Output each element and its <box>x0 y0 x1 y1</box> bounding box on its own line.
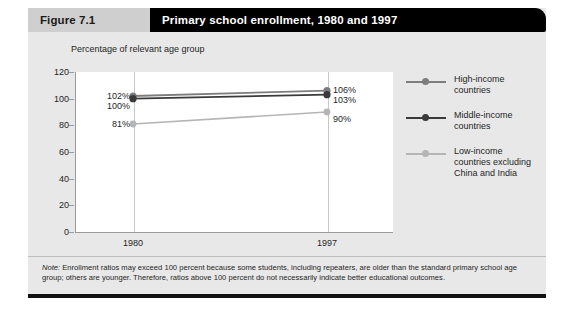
figure-note: Note: Enrollment ratios may exceed 100 p… <box>28 256 546 283</box>
legend-item-low-income[interactable]: Low-income countries excluding China and… <box>406 146 544 179</box>
figure-title-bar: Primary school enrollment, 1980 and 1997 <box>150 8 546 32</box>
x-tick-label-1997: 1997 <box>317 238 337 248</box>
figure-container: Figure 7.1 Primary school enrollment, 19… <box>28 8 546 298</box>
y-tick-mark-40 <box>69 179 74 180</box>
chart-region: Percentage of relevant age group 0 20 40… <box>28 32 546 256</box>
series-point-low-income-1980 <box>130 121 137 128</box>
y-tick-mark-100 <box>69 99 74 100</box>
legend-marker-low-income-icon <box>406 149 446 158</box>
point-label-middle-income-1997: 103% <box>333 95 356 105</box>
legend-label-high-income: High-income countries <box>454 74 544 96</box>
figure-note-lead: Note: <box>42 263 60 272</box>
chart-subtitle: Percentage of relevant age group <box>71 44 205 54</box>
point-label-high-income-1997: 106% <box>333 85 356 95</box>
series-low-income <box>130 109 331 128</box>
series-point-middle-income-1997 <box>323 91 330 98</box>
y-axis-tick-marks <box>28 72 75 232</box>
point-label-middle-income-1980: 100% <box>84 101 130 111</box>
figure-title: Primary school enrollment, 1980 and 1997 <box>162 14 397 26</box>
series-point-low-income-1997 <box>324 109 331 116</box>
y-tick-mark-20 <box>69 205 74 206</box>
legend-item-high-income[interactable]: High-income countries <box>406 74 544 96</box>
y-tick-mark-0 <box>69 232 74 233</box>
legend-label-middle-income: Middle-income countries <box>454 110 544 132</box>
legend-item-middle-income[interactable]: Middle-income countries <box>406 110 544 132</box>
figure-number-label: Figure 7.1 <box>40 14 95 26</box>
legend-label-low-income: Low-income countries excluding China and… <box>454 146 544 179</box>
figure-note-body: Enrollment ratios may exceed 100 percent… <box>42 263 517 282</box>
figure-header: Figure 7.1 Primary school enrollment, 19… <box>28 8 546 32</box>
point-label-low-income-1980: 81% <box>84 119 130 129</box>
series-point-middle-income-1980 <box>129 95 136 102</box>
legend-marker-middle-income-icon <box>406 113 446 122</box>
legend-marker-high-income-icon <box>406 77 446 86</box>
chart-legend: High-income countries Middle-income coun… <box>406 74 544 193</box>
point-label-low-income-1997: 90% <box>333 114 351 124</box>
y-tick-mark-120 <box>69 72 74 73</box>
point-label-high-income-1980: 102% <box>84 91 130 101</box>
figure-note-text: Note: Enrollment ratios may exceed 100 p… <box>42 263 534 283</box>
figure-number-badge: Figure 7.1 <box>28 8 150 32</box>
y-tick-mark-80 <box>69 125 74 126</box>
series-line-low-income <box>133 112 327 124</box>
y-tick-mark-60 <box>69 152 74 153</box>
x-tick-label-1980: 1980 <box>123 238 143 248</box>
